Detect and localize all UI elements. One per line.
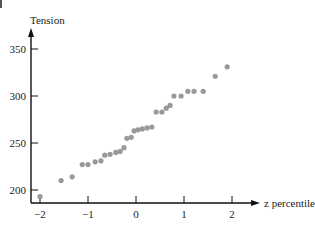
data-point xyxy=(140,126,145,131)
data-point xyxy=(167,103,172,108)
x-axis-title: z percentile xyxy=(264,197,315,209)
x-ticks: −2−1012 xyxy=(34,196,235,220)
y-axis-title: Tension xyxy=(30,14,65,26)
y-tick-label: 250 xyxy=(10,137,27,149)
data-point xyxy=(213,74,218,79)
data-point xyxy=(129,135,134,140)
data-point xyxy=(144,125,149,130)
y-tick-label: 200 xyxy=(10,184,27,196)
x-axis-arrow-icon xyxy=(251,200,260,206)
y-tick-label: 300 xyxy=(10,90,27,102)
data-point xyxy=(113,150,118,155)
data-point xyxy=(149,124,154,129)
y-tick-label: 350 xyxy=(10,43,27,55)
x-tick-label: 1 xyxy=(181,208,187,220)
data-point xyxy=(98,158,103,163)
data-point xyxy=(179,93,184,98)
data-point xyxy=(154,109,159,114)
data-point xyxy=(135,127,140,132)
data-point xyxy=(102,153,107,158)
data-points xyxy=(37,64,229,199)
data-point xyxy=(201,89,206,94)
data-point xyxy=(93,159,98,164)
y-axis-arrow-icon xyxy=(28,28,34,37)
data-point xyxy=(185,89,190,94)
x-tick-label: 0 xyxy=(133,208,139,220)
x-tick-label: −1 xyxy=(82,208,94,220)
data-point xyxy=(171,93,176,98)
data-point xyxy=(191,89,196,94)
corner-fragment xyxy=(0,0,2,8)
x-tick-label: 2 xyxy=(229,208,235,220)
data-point xyxy=(107,152,112,157)
data-point xyxy=(159,109,164,114)
data-point xyxy=(118,149,123,154)
normal-probability-plot: Tension z percentile 200250300350 −2−101… xyxy=(0,0,315,226)
data-point xyxy=(85,162,90,167)
data-point xyxy=(59,178,64,183)
data-point xyxy=(225,64,230,69)
data-point xyxy=(121,145,126,150)
y-ticks: 200250300350 xyxy=(10,43,39,196)
data-point xyxy=(124,136,129,141)
x-tick-label: −2 xyxy=(34,208,46,220)
data-point xyxy=(37,194,42,199)
data-point xyxy=(80,162,85,167)
data-point xyxy=(70,174,75,179)
